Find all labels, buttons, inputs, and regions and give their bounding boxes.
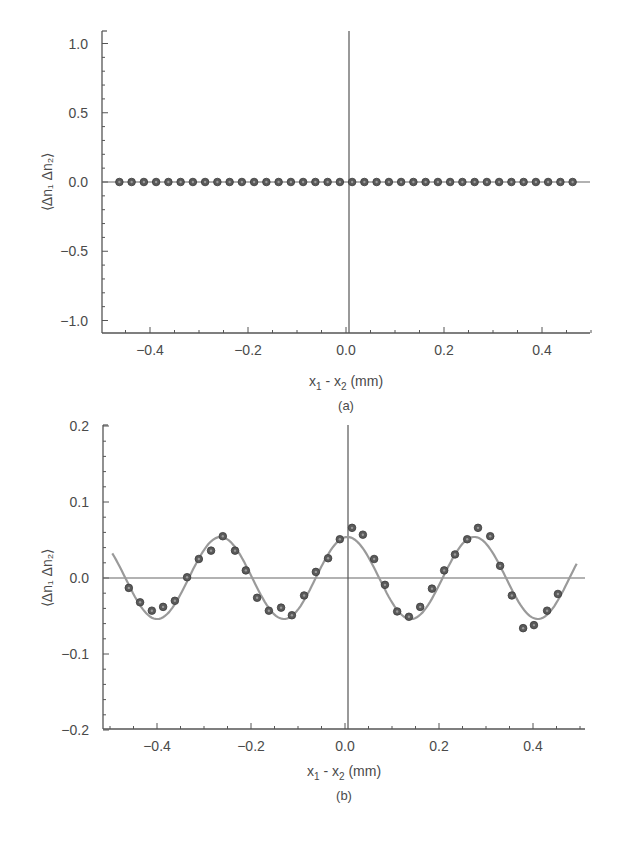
x-tick-label: −0.4 xyxy=(143,738,171,754)
y-tick-label: −1.0 xyxy=(60,313,88,329)
y-tick-label: 0.1 xyxy=(70,494,90,510)
y-tick-label: 0.2 xyxy=(70,418,90,434)
x-tick-label: −0.2 xyxy=(234,342,262,358)
x-tick-label: 0.4 xyxy=(532,342,552,358)
y-tick-label: −0.2 xyxy=(61,722,89,738)
panel-a-plot: −1.0−0.50.00.51.0−0.4−0.20.00.20.4 ⟨Δn₁ … xyxy=(39,31,591,413)
panel-b-x-axis-label: x1 - x2 (mm) xyxy=(307,763,381,782)
figure-canvas: −1.0−0.50.00.51.0−0.4−0.20.00.20.4 ⟨Δn₁ … xyxy=(0,0,618,843)
panel-b-reference-lines xyxy=(103,425,585,729)
x-tick-label: 0.2 xyxy=(434,342,454,358)
y-tick-label: −0.5 xyxy=(60,243,88,259)
y-tick-label: 0.0 xyxy=(69,174,89,190)
y-tick-label: 0.5 xyxy=(69,105,89,121)
panel-b-tick-labels: −0.2−0.10.00.10.2−0.4−0.20.00.20.4 xyxy=(61,418,543,754)
panel-b-caption: (b) xyxy=(336,788,352,803)
panel-a-reference-lines xyxy=(102,31,590,333)
panel-b-y-axis-label: ⟨Δn₁ Δn₂⟩ xyxy=(39,549,55,607)
y-tick-label: 0.0 xyxy=(70,570,90,586)
y-tick-label: 1.0 xyxy=(69,36,89,52)
panel-b-plot: −0.2−0.10.00.10.2−0.4−0.20.00.20.4 ⟨Δn₁ … xyxy=(39,418,585,803)
x-tick-label: −0.4 xyxy=(136,342,164,358)
x-tick-label: −0.2 xyxy=(237,738,265,754)
y-tick-label: −0.1 xyxy=(61,646,89,662)
x-tick-label: 0.0 xyxy=(336,342,356,358)
x-tick-label: 0.4 xyxy=(523,738,543,754)
panel-a-y-axis-label: ⟨Δn₁ Δn₂⟩ xyxy=(39,153,55,211)
panel-a-tick-labels: −1.0−0.50.00.51.0−0.4−0.20.00.20.4 xyxy=(60,36,552,359)
x-tick-label: 0.2 xyxy=(429,738,449,754)
figure: −1.0−0.50.00.51.0−0.4−0.20.00.20.4 ⟨Δn₁ … xyxy=(0,0,618,843)
x-tick-label: 0.0 xyxy=(335,738,355,754)
panel-a-caption: (a) xyxy=(338,398,354,413)
panel-a-x-axis-label: x1 - x2 (mm) xyxy=(309,373,383,392)
